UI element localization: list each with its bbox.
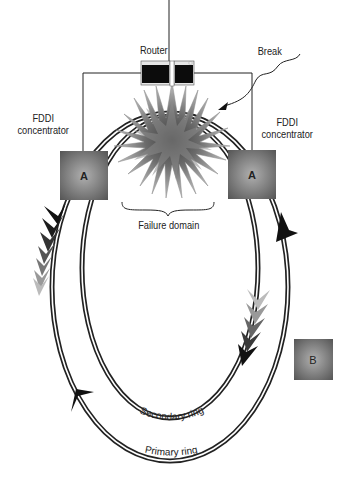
wrap-arrows-right-icon: [238, 289, 270, 366]
router-icon: [141, 61, 194, 86]
primary-ring-label: Primary ring: [144, 444, 198, 458]
router-label: Router: [140, 44, 168, 56]
concentrator-right-box: A: [228, 150, 276, 199]
station-b-letter: B: [309, 354, 316, 366]
fddi-diagram: A A B Secondary ring Primary ring: [0, 0, 354, 486]
concentrator-left-label: FDDI concentrator: [18, 112, 69, 136]
concentrator-left-label-line1: FDDI: [18, 112, 69, 124]
concentrator-right-letter: A: [248, 169, 256, 181]
concentrator-left-box: A: [60, 151, 108, 200]
failure-domain-brace-icon: [122, 202, 214, 216]
failure-domain-label: Failure domain: [138, 219, 199, 231]
concentrator-right-label: FDDI concentrator: [262, 116, 313, 140]
concentrator-left-letter: A: [80, 170, 88, 182]
break-label: Break: [258, 45, 282, 57]
break-pointer-icon: [218, 54, 300, 110]
concentrator-right-label-line2: concentrator: [262, 128, 313, 140]
concentrator-right-label-line1: FDDI: [262, 116, 313, 128]
station-b-box: B: [294, 339, 333, 380]
concentrator-left-label-line2: concentrator: [18, 124, 69, 136]
secondary-ring-label: Secondary ring: [138, 404, 205, 422]
